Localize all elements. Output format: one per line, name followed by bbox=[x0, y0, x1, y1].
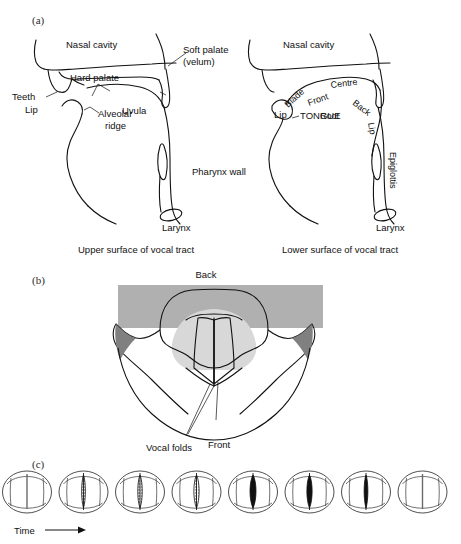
label-nasal-cavity-r: Nasal cavity bbox=[283, 39, 334, 50]
caption-lower-surface: Lower surface of vocal tract bbox=[282, 244, 399, 255]
label-lip: Lip bbox=[25, 104, 38, 115]
glottis-left-fold-line bbox=[10, 478, 11, 506]
epiglottis-sliver bbox=[158, 144, 167, 180]
label-time: Time bbox=[14, 525, 35, 536]
glottis-left-fold-line bbox=[67, 478, 68, 506]
lower-lip-contour bbox=[62, 100, 82, 114]
velum-uvula-r bbox=[373, 69, 384, 108]
caption-upper-surface: Upper surface of vocal tract bbox=[78, 244, 195, 255]
label-pharynx-wall: Pharynx wall bbox=[192, 166, 246, 177]
label-tongue: Root bbox=[320, 111, 340, 121]
time-arrow-head bbox=[78, 527, 86, 534]
vocal-folds-leader-2 bbox=[186, 384, 210, 436]
larynx-opening bbox=[159, 207, 183, 222]
label-alveolar: Alveolar bbox=[98, 108, 132, 119]
glottis-right-fold-line bbox=[326, 478, 327, 506]
glottis-left-fold-line bbox=[123, 478, 124, 506]
label-front-b: Front bbox=[208, 439, 231, 450]
glottis-left-fold-line bbox=[406, 478, 407, 506]
glottis-right-fold-line bbox=[100, 478, 101, 506]
upper-vocal-tract-diagram: Nasal cavity Soft palate (velum) Hard pa… bbox=[12, 34, 246, 255]
panel-b: (b) Back Vocal folds Front bbox=[32, 269, 323, 453]
glottis-left-fold-line bbox=[349, 478, 350, 506]
neck-front-contour-r bbox=[290, 206, 318, 224]
neck-front-contour bbox=[88, 206, 116, 224]
larynx-tube-left bbox=[159, 176, 161, 212]
panel-a: (a) bbox=[12, 14, 405, 255]
nose-contour bbox=[35, 40, 45, 69]
label-lip-outer-r: Lip bbox=[274, 109, 287, 120]
glottis-right-fold-line bbox=[269, 478, 270, 506]
panel-a-label: (a) bbox=[32, 14, 45, 27]
glottis-frame-2 bbox=[59, 471, 108, 513]
glottis-frame-8 bbox=[398, 471, 447, 513]
lip-leader-r bbox=[292, 116, 299, 118]
label-front: Front bbox=[306, 91, 330, 108]
right-fold-shadow bbox=[292, 324, 313, 360]
glottis-frame-5 bbox=[229, 471, 278, 513]
teeth-contour bbox=[48, 70, 60, 92]
nasal-floor-line bbox=[44, 63, 176, 70]
epiglottis-sliver-r bbox=[372, 144, 381, 180]
panel-b-label: (b) bbox=[32, 274, 45, 287]
label-ridge: ridge bbox=[105, 120, 126, 131]
glottis-frame-4 bbox=[172, 471, 221, 513]
left-fold-shadow bbox=[115, 324, 136, 360]
label-larynx-right: Larynx bbox=[376, 222, 405, 233]
glottis-left-fold-line bbox=[236, 478, 237, 506]
glottis-right-fold-line bbox=[213, 478, 214, 506]
pharynx-wall-contour bbox=[164, 107, 180, 224]
label-centre: Centre bbox=[330, 77, 358, 90]
panel-c-label: (c) bbox=[32, 458, 45, 471]
label-velum: (velum) bbox=[183, 56, 215, 67]
glottal-cycle-sequence bbox=[3, 471, 448, 513]
label-hard-palate: Hard palate bbox=[70, 72, 119, 83]
glottis-frame-6 bbox=[285, 471, 334, 513]
jaw-contour bbox=[67, 114, 88, 206]
label-root: Lip bbox=[366, 122, 378, 136]
glottis-frame-3 bbox=[116, 471, 165, 513]
vocal-folds-leader bbox=[188, 386, 214, 434]
label-back-b: Back bbox=[195, 269, 216, 280]
label-blade: Blade bbox=[283, 86, 307, 109]
soft-palate-underside bbox=[87, 84, 164, 107]
label-soft-palate: Soft palate bbox=[183, 44, 228, 55]
vocal-tract-figure: (a) bbox=[0, 0, 461, 544]
larynx-opening-r bbox=[373, 207, 397, 222]
label-teeth: Teeth bbox=[12, 91, 35, 102]
glottis-left-fold-line bbox=[293, 478, 294, 506]
label-epiglottis: Epiglottis bbox=[388, 152, 398, 189]
hard-palate-leader bbox=[92, 84, 110, 96]
glottis-right-fold-line bbox=[156, 478, 157, 506]
glottis-frame-7 bbox=[342, 471, 391, 513]
velum-uvula bbox=[159, 69, 170, 108]
jaw-contour-r bbox=[269, 119, 290, 206]
teeth-leader bbox=[46, 92, 57, 97]
lower-vocal-tract-diagram: Nasal cavity Centre Blade Front Back Lip… bbox=[249, 34, 405, 255]
panel-c: (c) Time bbox=[3, 458, 448, 536]
label-vocal-folds: Vocal folds bbox=[146, 442, 192, 453]
label-larynx-left: Larynx bbox=[162, 222, 191, 233]
glottis-left-fold-line bbox=[180, 478, 181, 506]
nasal-floor-line-r bbox=[258, 63, 390, 70]
larynx-tube-r bbox=[373, 176, 375, 212]
glottis-right-fold-line bbox=[439, 478, 440, 506]
glottis-right-fold-line bbox=[43, 478, 44, 506]
nose-contour-r bbox=[249, 40, 259, 69]
front-leader bbox=[216, 382, 218, 420]
label-nasal-cavity: Nasal cavity bbox=[66, 39, 117, 50]
alveolar-leader bbox=[84, 107, 99, 113]
teeth-contour-r bbox=[262, 70, 274, 92]
glottis-frame-1 bbox=[3, 471, 52, 513]
glottis-right-fold-line bbox=[382, 478, 383, 506]
label-back: Back bbox=[351, 98, 373, 119]
